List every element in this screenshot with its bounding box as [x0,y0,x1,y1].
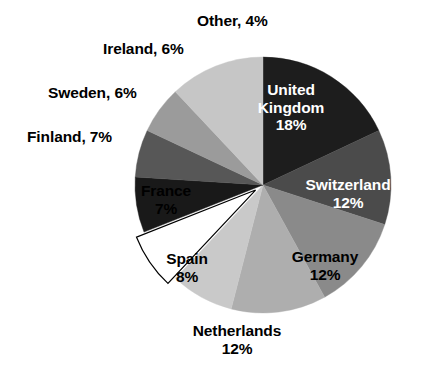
slice-label-netherlands: Netherlands 12% [182,322,292,358]
slice-label-germany-name: Germany [281,248,369,266]
slice-label-sweden: Sweden, 6% [48,84,137,101]
slice-label-sweden-text: Sweden, 6% [48,84,137,101]
slice-label-uk-name-line2: Kingdom [244,99,338,117]
slice-label-ireland-text: Ireland, 6% [103,40,184,57]
slice-label-ireland: Ireland, 6% [103,40,184,57]
slice-label-other: Other, 4% [197,12,268,29]
slice-label-spain-name: Spain [156,250,218,268]
slice-label-spain: Spain 8% [156,250,218,285]
slice-label-other-text: Other, 4% [197,12,268,29]
slice-label-netherlands-name: Netherlands [182,322,292,340]
slice-label-uk-pct: 18% [244,116,338,134]
slice-label-france-name: France [128,182,204,200]
slice-label-germany-pct: 12% [281,266,369,284]
slice-label-switzerland-name: Switzerland [296,176,400,194]
slice-label-germany: Germany 12% [281,248,369,283]
slice-label-finland: Finland, 7% [27,128,112,145]
slice-label-netherlands-pct: 12% [182,340,292,358]
slice-label-uk-name-line1: United [244,81,338,99]
slice-label-spain-pct: 8% [156,268,218,286]
pie-chart: Other, 4% Ireland, 6% Sweden, 6% Finland… [0,0,427,382]
slice-label-france: France 7% [128,182,204,217]
slice-label-united-kingdom: United Kingdom 18% [244,81,338,134]
slice-label-finland-text: Finland, 7% [27,128,112,145]
slice-label-switzerland-pct: 12% [296,194,400,212]
slice-label-switzerland: Switzerland 12% [296,176,400,211]
slice-label-france-pct: 7% [128,200,204,218]
